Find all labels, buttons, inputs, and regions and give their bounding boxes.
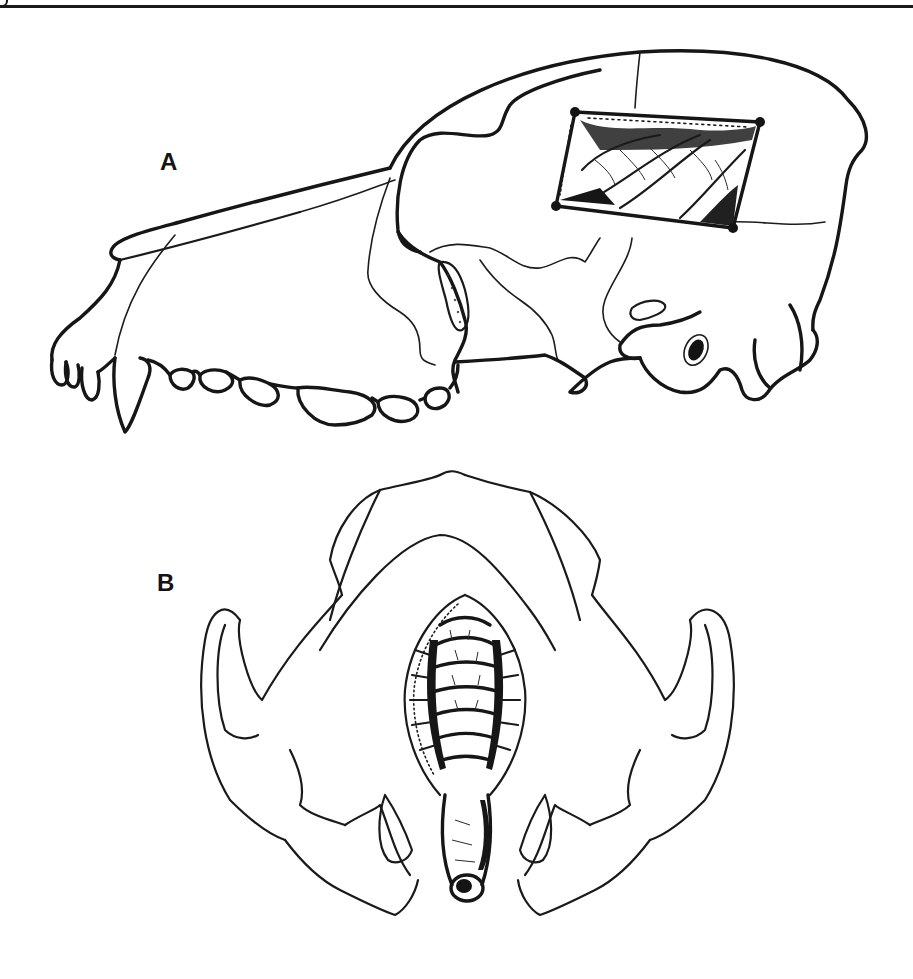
canine-tooth [114, 358, 150, 432]
spinal-cord [442, 795, 491, 901]
lacrimal-suture [368, 178, 435, 365]
carnassial-tooth [298, 387, 375, 425]
skull-illustration [0, 0, 913, 979]
craniotomy-window [551, 107, 765, 233]
glenoid-fossa [630, 301, 665, 320]
ventral-outline-right [592, 595, 734, 840]
spinal-canal [456, 879, 472, 893]
incisor-3 [82, 368, 100, 400]
sagittal-suture [635, 52, 640, 108]
nasal-bone-line [120, 212, 300, 260]
occipital-suture [726, 222, 825, 225]
burr-hole-2 [755, 117, 765, 127]
temporal-suture-3 [603, 238, 632, 342]
premolar-3 [240, 378, 278, 406]
skull-base-line [455, 355, 640, 393]
lateral-skull-drawing [52, 51, 867, 432]
bulla-right [525, 805, 590, 875]
bulla-left [345, 805, 410, 875]
gum-line [98, 358, 170, 375]
basicranium-line-left [290, 750, 345, 825]
burr-hole-4 [551, 201, 561, 211]
basicranium-line-right [590, 750, 640, 825]
temporal-suture-1 [430, 238, 600, 268]
zygomatic-arch-left [218, 625, 259, 738]
postglenoid-outline [620, 312, 700, 358]
nasal-profile [111, 168, 390, 260]
rostral-tip [440, 471, 465, 475]
burr-hole-3 [728, 223, 738, 233]
muzzle-front [52, 260, 120, 360]
molar-1 [378, 396, 418, 421]
tympanic-bulla-outline [640, 330, 817, 400]
mastoid-process [754, 305, 802, 388]
maxillary-teeth [52, 358, 458, 432]
ventral-skull-drawing [201, 471, 734, 915]
zygomatic-process-outline [398, 232, 466, 392]
paracondylar-left [379, 795, 412, 862]
palate-outer-outline [330, 475, 600, 595]
temporal-suture-2 [480, 260, 558, 360]
burr-hole-1 [570, 107, 580, 117]
ventral-window [405, 595, 526, 795]
molar-2 [425, 388, 449, 409]
occipital-outline-left [285, 840, 418, 915]
